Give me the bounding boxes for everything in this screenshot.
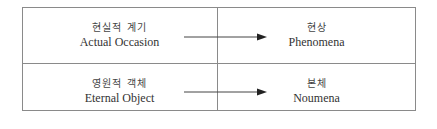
arrows-layer [0,0,437,129]
arrow-actual-to-phenomena [184,34,267,41]
arrow-eternal-to-noumena [184,89,267,96]
